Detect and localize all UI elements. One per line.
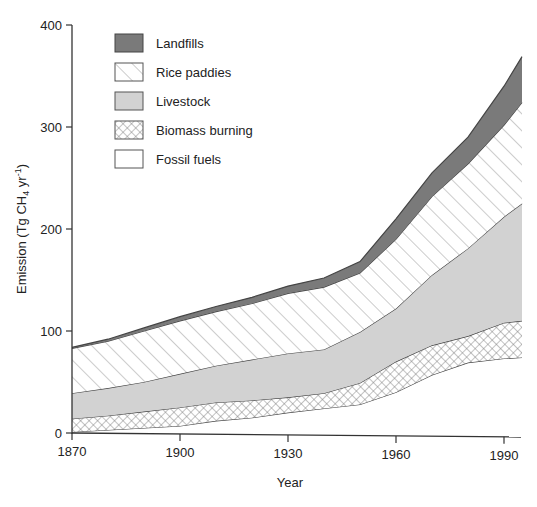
y-tick-label: 300: [40, 120, 62, 135]
legend-item-biomass-burning: Biomass burning: [115, 121, 253, 139]
rice-paddies-swatch-icon: [115, 63, 143, 81]
y-tick-label: 100: [40, 324, 62, 339]
x-tick-label: 1900: [166, 445, 195, 460]
stacked-area-chart: 0100200300400 Emission (Tg CH4 yr-1) 187…: [0, 0, 537, 507]
svg-text:Rice paddies: Rice paddies: [156, 65, 232, 80]
legend-item-livestock: Livestock: [115, 92, 211, 110]
y-axis-title: Emission (Tg CH4 yr-1): [13, 164, 31, 294]
x-tick-label: 1960: [382, 447, 411, 462]
y-tick-label: 200: [40, 222, 62, 237]
y-tick-label: 400: [40, 18, 62, 33]
landfills-swatch-icon: [115, 34, 143, 52]
y-axis: 0100200300400 Emission (Tg CH4 yr-1): [13, 18, 72, 441]
x-axis-title: Year: [277, 475, 304, 490]
biomass-burning-swatch-icon: [115, 121, 143, 139]
livestock-swatch-icon: [115, 92, 143, 110]
legend-item-fossil-fuels: Fossil fuels: [115, 150, 222, 168]
legend: Landfills Rice paddies Livestock Biomass…: [115, 34, 253, 168]
svg-text:Landfills: Landfills: [156, 36, 204, 51]
svg-text:Biomass burning: Biomass burning: [156, 123, 253, 138]
x-tick-label: 1930: [274, 446, 303, 461]
legend-item-rice-paddies: Rice paddies: [115, 63, 232, 81]
svg-text:Fossil fuels: Fossil fuels: [156, 152, 222, 167]
fossil-fuels-swatch-icon: [115, 150, 143, 168]
x-tick-label: 1990: [490, 448, 519, 463]
svg-text:Livestock: Livestock: [156, 94, 211, 109]
y-tick-label: 0: [55, 426, 62, 441]
x-axis: 18701900193019601990 Year: [58, 433, 521, 490]
plot-area: [72, 57, 522, 433]
legend-item-landfills: Landfills: [115, 34, 204, 52]
x-tick-label: 1870: [58, 444, 87, 459]
